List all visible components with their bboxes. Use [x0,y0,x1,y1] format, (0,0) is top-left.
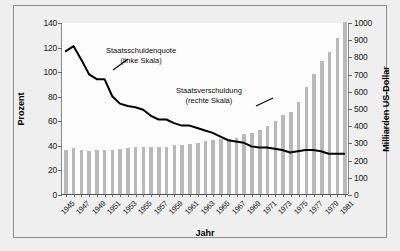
x-tick-mark [268,194,269,197]
x-tick-mark [337,194,338,197]
x-tick-mark [89,194,90,197]
x-tick-label: 1963 [199,199,216,216]
x-tick-label: 1967 [230,199,247,216]
x-tick-mark [229,194,230,197]
y-tick-label-left: 60 [48,116,57,126]
x-tick-mark [120,194,121,197]
y-tick-label-right: 700 [354,70,368,80]
x-tick-mark [97,194,98,197]
y-axis-label-left: Prozent [16,92,26,125]
y-tick-mark-right [348,109,352,110]
x-tick-label: 1979 [323,199,340,216]
x-tick-mark [221,194,222,197]
annotation-staatsschuldenquote: Staatsschuldenquote (linke Skala) [106,46,176,65]
annotation-schuld-line2: (rechte Skala) [176,96,242,106]
annotation-schuld-line1: Staatsverschuldung [176,86,242,96]
x-tick-label: 1973 [276,199,293,216]
line-series-staatsschuldenquote [62,23,348,194]
y-tick-mark-right [348,143,352,144]
x-tick-mark [206,194,207,197]
x-tick-mark [182,194,183,197]
y-tick-mark-right [348,23,352,24]
y-tick-mark-right [348,57,352,58]
x-tick-mark [237,194,238,197]
y-tick-label-left: 20 [48,165,57,175]
x-tick-label: 1951 [105,199,122,216]
x-tick-mark [143,194,144,197]
y-tick-mark-left [58,195,62,196]
y-tick-label-right: 300 [354,138,368,148]
y-tick-mark-right [348,178,352,179]
y-tick-label-left: 40 [48,141,57,151]
x-tick-label: 1981 [338,199,355,216]
x-tick-label: 1945 [59,199,76,216]
x-tick-mark [252,194,253,197]
x-tick-label: 1957 [152,199,169,216]
x-tick-label: 1961 [183,199,200,216]
x-tick-mark [159,194,160,197]
x-tick-label: 1969 [245,199,262,216]
y-tick-label-right: 0 [354,190,359,200]
x-tick-mark [74,194,75,197]
x-tick-mark [105,194,106,197]
x-tick-mark [213,194,214,197]
annotation-staatsverschuldung: Staatsverschuldung (rechte Skala) [176,86,242,105]
y-tick-label-left: 0 [52,190,57,200]
x-tick-label: 1965 [214,199,231,216]
x-tick-mark [291,194,292,197]
y-tick-label-right: 400 [354,121,368,131]
y-tick-label-right: 900 [354,35,368,45]
y-tick-mark-right [348,92,352,93]
x-tick-mark [112,194,113,197]
x-tick-label: 1977 [307,199,324,216]
y-tick-label-left: 140 [43,18,57,28]
x-tick-mark [306,194,307,197]
y-tick-label-right: 800 [354,52,368,62]
x-tick-mark [66,194,67,197]
y-tick-label-right: 100 [354,173,368,183]
x-tick-mark [299,194,300,197]
x-tick-mark [345,194,346,197]
x-tick-mark [190,194,191,197]
x-tick-mark [198,194,199,197]
y-tick-label-right: 200 [354,156,368,166]
annotation-quote-line1: Staatsschuldenquote [106,46,176,56]
x-tick-mark [322,194,323,197]
x-tick-mark [260,194,261,197]
x-tick-label: 1971 [261,199,278,216]
x-tick-mark [314,194,315,197]
x-tick-mark [81,194,82,197]
x-tick-mark [167,194,168,197]
x-tick-mark [151,194,152,197]
y-tick-label-left: 80 [48,92,57,102]
x-tick-mark [330,194,331,197]
x-tick-label: 1959 [168,199,185,216]
x-tick-label: 1949 [90,199,107,216]
x-axis-label: Jahr [195,228,214,238]
y-tick-mark-right [348,75,352,76]
y-tick-mark-right [348,126,352,127]
x-tick-mark [136,194,137,197]
chart-frame: Prozent Milliarden US-Dollar Jahr 020406… [13,5,387,238]
y-tick-mark-right [348,40,352,41]
annotation-quote-line2: (linke Skala) [106,56,176,66]
x-tick-mark [244,194,245,197]
x-tick-label: 1953 [121,199,138,216]
y-tick-mark-right [348,195,352,196]
y-tick-label-right: 500 [354,104,368,114]
x-tick-label: 1947 [74,199,91,216]
y-tick-label-right: 1000 [354,18,372,28]
plot-area: 020406080100120140 010020030040050060070… [61,23,348,195]
y-tick-label-left: 120 [43,43,57,53]
y-tick-label-left: 100 [43,67,57,77]
x-tick-label: 1975 [292,199,309,216]
chart-figure: Prozent Milliarden US-Dollar Jahr 020406… [0,0,400,251]
y-axis-label-right: Milliarden US-Dollar [381,66,391,152]
x-tick-mark [275,194,276,197]
x-tick-mark [283,194,284,197]
x-tick-mark [174,194,175,197]
y-tick-mark-right [348,161,352,162]
x-tick-mark [128,194,129,197]
x-tick-label: 1955 [136,199,153,216]
y-tick-label-right: 600 [354,87,368,97]
